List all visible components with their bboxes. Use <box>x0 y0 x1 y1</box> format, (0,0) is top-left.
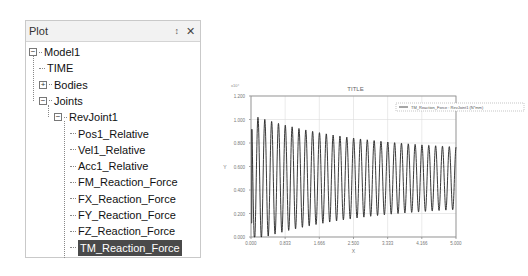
tree-item-fm-reaction-force[interactable]: FM_Reaction_Force <box>70 174 178 190</box>
tree-connector <box>70 198 76 199</box>
close-icon[interactable]: ✕ <box>186 25 195 38</box>
y-axis-label: Y <box>223 164 227 170</box>
y-tick-label: 0.200 <box>234 212 246 217</box>
tree-item-tm-reaction-force[interactable]: TM_Reaction_Force <box>70 240 182 256</box>
tree-connector <box>70 133 76 134</box>
tree-connector <box>70 182 76 183</box>
tree-item-label: TIME <box>47 60 73 76</box>
collapse-icon[interactable]: − <box>39 97 47 105</box>
y-tick-label: 0.000 <box>234 235 246 240</box>
pin-icon[interactable]: ↕ <box>175 26 180 36</box>
tree-connector <box>70 149 76 150</box>
y-tick-label: 0.600 <box>234 165 246 170</box>
tree-item-fz-reaction-force[interactable]: FZ_Reaction_Force <box>70 223 175 239</box>
model-tree[interactable]: −Model1TIME+Bodies−Joints−RevJoint1Pos1_… <box>26 42 200 259</box>
line-chart[interactable]: 0.0000.2000.4000.6000.8001.0001.2000.000… <box>218 70 528 270</box>
x-tick-label: 0.833 <box>280 241 292 246</box>
x-tick-label: 4.166 <box>416 241 428 246</box>
y-tick-label: 0.400 <box>234 188 246 193</box>
tree-connector <box>49 84 52 85</box>
tree-item-label: FM_Reaction_Force <box>78 174 178 190</box>
tree-item-label: Model1 <box>44 44 80 60</box>
tree-item-label: Acc1_Relative <box>78 158 148 174</box>
tree-connector <box>49 100 52 101</box>
tree-connector <box>70 166 76 167</box>
tree-item-model1[interactable]: −Model1 <box>29 44 80 60</box>
x-tick-label: 5.000 <box>450 241 462 246</box>
y-tick-label: 1.000 <box>234 118 246 123</box>
tree-item-label: Joints <box>54 93 83 109</box>
tree-item-label: TM_Reaction_Force <box>78 240 182 256</box>
tree-item-label: FZ_Reaction_Force <box>78 223 175 239</box>
tree-item-joints[interactable]: −Joints <box>39 93 83 109</box>
x-axis-label: X <box>352 248 356 254</box>
x-tick-label: 3.333 <box>382 241 394 246</box>
tree-connector <box>39 68 45 69</box>
tree-connector-line <box>64 121 65 259</box>
tree-item-revjoint1[interactable]: −RevJoint1 <box>54 109 118 125</box>
plot-panel: Plot ↕ ✕ −Model1TIME+Bodies−Joints−RevJo… <box>25 20 201 258</box>
legend-label: TM_Reaction_Force : RevJoint1 (N*mm) <box>411 105 484 110</box>
tree-item-tx-reaction-force[interactable]: TX_Reaction_Force <box>70 256 176 259</box>
x-tick-label: 1.666 <box>314 241 326 246</box>
tree-item-label: Vel1_Relative <box>78 142 145 158</box>
tree-connector <box>70 215 76 216</box>
tree-connector <box>64 117 67 118</box>
tree-item-fx-reaction-force[interactable]: FX_Reaction_Force <box>70 191 176 207</box>
tree-connector <box>70 231 76 232</box>
tree-item-label: RevJoint1 <box>69 109 118 125</box>
tree-item-time[interactable]: TIME <box>39 60 73 76</box>
tree-item-label: Bodies <box>54 77 88 93</box>
tree-item-label: TX_Reaction_Force <box>78 256 176 259</box>
y-tick-label: 1.200 <box>234 94 246 99</box>
collapse-icon[interactable]: − <box>54 113 62 121</box>
tree-item-label: FX_Reaction_Force <box>78 191 176 207</box>
tree-item-pos1-relative[interactable]: Pos1_Relative <box>70 126 149 142</box>
panel-title: Plot <box>29 25 48 37</box>
tree-connector <box>70 247 76 248</box>
tree-item-bodies[interactable]: +Bodies <box>39 77 88 93</box>
y-tick-label: 0.800 <box>234 141 246 146</box>
collapse-icon[interactable]: − <box>29 48 37 56</box>
tree-item-label: FY_Reaction_Force <box>78 207 176 223</box>
panel-header: Plot ↕ ✕ <box>26 21 200 42</box>
plot-area[interactable]: 0.0000.2000.4000.6000.8001.0001.2000.000… <box>218 70 528 270</box>
chart-title: TITLE <box>347 86 363 92</box>
tree-connector <box>39 52 42 53</box>
x-tick-label: 0.000 <box>245 241 257 246</box>
y-multiplier-label: x10⁴ <box>231 83 239 88</box>
tree-item-label: Pos1_Relative <box>78 126 149 142</box>
tree-connector-line <box>33 54 34 101</box>
tree-item-fy-reaction-force[interactable]: FY_Reaction_Force <box>70 207 176 223</box>
tree-item-acc1-relative[interactable]: Acc1_Relative <box>70 158 148 174</box>
expand-icon[interactable]: + <box>39 81 47 89</box>
x-tick-label: 2.500 <box>348 241 360 246</box>
tree-item-vel1-relative[interactable]: Vel1_Relative <box>70 142 145 158</box>
